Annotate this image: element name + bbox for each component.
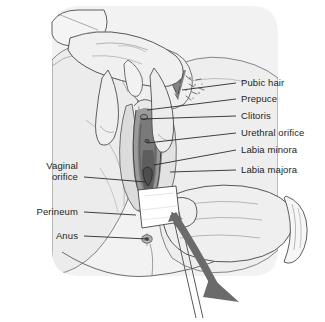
label-labia-majora: Labia majora [241,164,297,175]
label-prepuce: Prepuce [241,93,277,104]
perineal-anatomy-figure: Pubic hair Prepuce Clitoris Urethral ori… [0,0,325,322]
label-perineum: Perineum [0,206,78,217]
label-anus: Anus [0,230,78,241]
label-clitoris: Clitoris [241,110,271,121]
label-urethral-orifice: Urethral orifice [241,127,304,138]
label-vaginal-orifice-line2: orifice [0,171,78,182]
label-pubic-hair: Pubic hair [241,77,284,88]
gloved-hand-wiping [164,185,308,263]
label-vaginal-orifice-line1: Vaginal [0,160,78,171]
label-labia-minora: Labia minora [241,144,297,155]
